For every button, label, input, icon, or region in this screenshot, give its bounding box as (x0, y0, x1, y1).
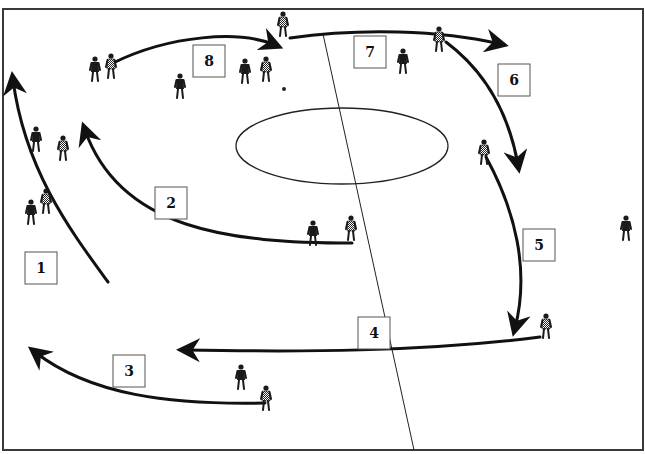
label-number: 1 (36, 260, 46, 276)
player-check-icon (346, 215, 356, 240)
player-check-icon (106, 53, 116, 78)
player-check-icon (261, 385, 271, 410)
label-box-7: 7 (354, 36, 386, 68)
player-dark-icon (621, 215, 631, 240)
label-box-4: 4 (358, 317, 390, 349)
arrow-run-3 (35, 352, 265, 403)
player-check-icon (541, 313, 551, 338)
player-check-icon (261, 56, 271, 81)
run-arrows (13, 32, 540, 403)
arrow-run-5 (486, 157, 521, 328)
label-box-3: 3 (113, 355, 145, 387)
label-number: 3 (124, 363, 134, 379)
player-dark-icon (31, 126, 41, 151)
tactics-diagram: 12345678 (0, 0, 645, 454)
arrow-run-7 (290, 32, 500, 44)
player-dark-icon (90, 56, 100, 81)
label-number: 6 (509, 72, 519, 88)
player-dark-icon (236, 364, 246, 389)
step-labels: 12345678 (25, 36, 555, 387)
label-number: 7 (365, 44, 375, 60)
ball-icon (282, 87, 286, 91)
player-dark-icon (175, 73, 185, 98)
label-box-6: 6 (498, 64, 530, 96)
player-dark-icon (26, 199, 36, 224)
label-box-2: 2 (155, 187, 187, 219)
label-box-5: 5 (523, 229, 555, 261)
label-box-1: 1 (25, 252, 57, 284)
player-check-icon (278, 11, 288, 36)
player-check-icon (434, 26, 444, 51)
player-dark-icon (398, 48, 408, 73)
label-number: 8 (204, 53, 214, 69)
label-box-8: 8 (193, 45, 225, 77)
player-check-icon (479, 139, 489, 164)
label-number: 4 (369, 325, 379, 341)
player-dark-icon (240, 58, 250, 83)
label-number: 2 (166, 195, 176, 211)
player-check-icon (58, 135, 68, 160)
label-number: 5 (534, 237, 544, 253)
